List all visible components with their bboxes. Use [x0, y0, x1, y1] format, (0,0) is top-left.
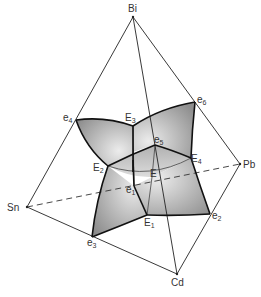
- label-Cd: Cd: [171, 277, 184, 288]
- label-E1: E1: [144, 217, 155, 229]
- label-E4: E4: [191, 153, 202, 165]
- label-E: E: [150, 168, 157, 179]
- label-e6: e6: [197, 94, 207, 106]
- label-e2: e2: [212, 210, 222, 222]
- label-Bi: Bi: [128, 3, 137, 14]
- label-Pb: Pb: [243, 159, 256, 170]
- label-e3: e3: [87, 237, 97, 249]
- label-Sn: Sn: [7, 202, 19, 213]
- label-e4: e4: [63, 112, 73, 124]
- label-E2: E2: [93, 162, 104, 174]
- label-E3: E3: [125, 112, 136, 124]
- tetrahedron-diagram: Bi Sn Pb Cd e4 e6 e5 e1 e2 e3 E3 E2 E4 E…: [0, 0, 261, 297]
- curve-E3-e1: [133, 160, 134, 186]
